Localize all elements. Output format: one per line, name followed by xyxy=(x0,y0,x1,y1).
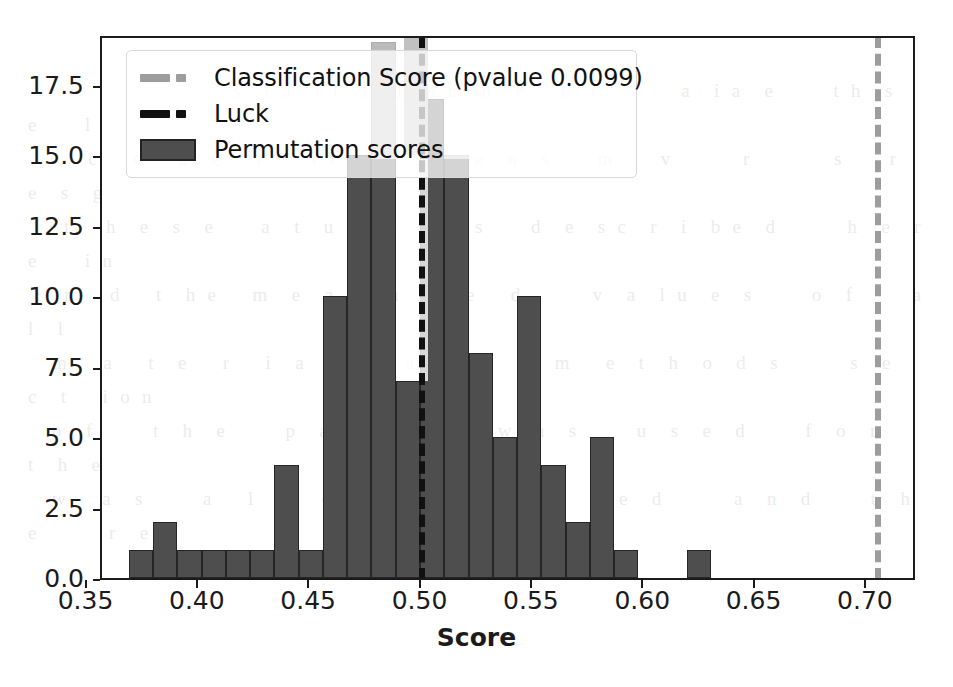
y-tick-mark xyxy=(93,297,100,299)
luck-line-key xyxy=(140,110,214,118)
y-tick-label: 17.5 xyxy=(10,71,84,100)
x-tick-label: 0.40 xyxy=(147,586,247,615)
bar-swatch-icon xyxy=(140,139,196,161)
histogram-bar xyxy=(469,353,493,578)
x-axis-label: Score xyxy=(0,623,953,652)
legend-label-luck: Luck xyxy=(214,100,269,128)
classification-score-reference-line xyxy=(875,36,881,580)
permutation-scores-patch-key xyxy=(140,139,214,161)
y-tick-label: 10.0 xyxy=(10,282,84,311)
x-tick-label: 0.65 xyxy=(704,586,804,615)
y-tick-mark xyxy=(93,509,100,511)
legend-item-luck[interactable]: Luck xyxy=(140,96,624,132)
y-tick-label: 5.0 xyxy=(10,423,84,452)
legend-label-classification-score: Classification Score (pvalue 0.0099) xyxy=(214,64,643,92)
histogram-bar xyxy=(274,465,298,578)
legend-item-classification-score[interactable]: Classification Score (pvalue 0.0099) xyxy=(140,60,624,96)
histogram-bar xyxy=(177,550,201,578)
y-tick-mark xyxy=(93,438,100,440)
histogram-bar xyxy=(250,550,274,578)
histogram-bar xyxy=(129,550,153,578)
histogram-bar xyxy=(493,437,517,578)
dash-segment-short-icon xyxy=(176,74,186,82)
dash-segment-long-icon xyxy=(140,74,170,82)
histogram-bar xyxy=(153,522,177,578)
histogram-bar xyxy=(226,550,250,578)
legend: Classification Score (pvalue 0.0099) Luc… xyxy=(126,50,637,178)
histogram-bar xyxy=(299,550,323,578)
x-tick-label: 0.70 xyxy=(815,586,915,615)
histogram-bar xyxy=(444,155,468,578)
histogram-bar xyxy=(590,437,614,578)
y-tick-mark xyxy=(93,156,100,158)
histogram-bar xyxy=(566,522,590,578)
x-tick-label: 0.60 xyxy=(592,586,692,615)
permutation-test-histogram-figure: 0.02.55.07.510.012.515.017.5 0.350.400.4… xyxy=(0,0,953,687)
histogram-bar xyxy=(687,550,711,578)
dash-segment-short-icon xyxy=(176,110,186,118)
legend-label-permutation-scores: Permutation scores xyxy=(214,136,443,164)
x-tick-label: 0.55 xyxy=(481,586,581,615)
x-tick-label: 0.50 xyxy=(370,586,470,615)
histogram-bar xyxy=(347,155,371,578)
histogram-bar xyxy=(541,465,565,578)
y-tick-mark xyxy=(93,86,100,88)
histogram-bar xyxy=(614,550,638,578)
classification-score-line-key xyxy=(140,74,214,82)
y-tick-mark xyxy=(93,227,100,229)
histogram-bar xyxy=(517,296,541,578)
histogram-bar xyxy=(202,550,226,578)
y-tick-mark xyxy=(93,368,100,370)
x-tick-label: 0.35 xyxy=(36,586,136,615)
y-tick-label: 7.5 xyxy=(10,353,84,382)
x-tick-label: 0.45 xyxy=(258,586,358,615)
y-tick-label: 15.0 xyxy=(10,141,84,170)
y-tick-label: 12.5 xyxy=(10,212,84,241)
dash-segment-long-icon xyxy=(140,110,170,118)
histogram-bar xyxy=(323,296,347,578)
legend-item-permutation-scores[interactable]: Permutation scores xyxy=(140,132,624,168)
histogram-bar xyxy=(396,381,420,578)
y-tick-mark xyxy=(93,579,100,581)
y-tick-label: 2.5 xyxy=(10,494,84,523)
